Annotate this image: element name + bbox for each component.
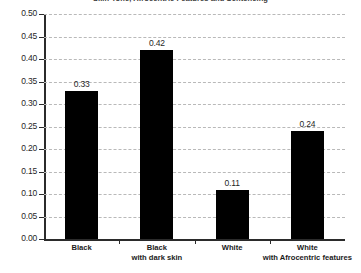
x-axis-tick <box>195 239 196 244</box>
bar-value-label: 0.42 <box>128 38 185 48</box>
chart-title: Skin Tone, Afrocentric Features and Sent… <box>0 0 361 3</box>
y-axis-tick <box>39 37 44 38</box>
y-axis-tick-label: 0.20 <box>3 143 37 153</box>
category-label-line: Black <box>71 243 91 252</box>
y-axis-tick-label: 0.25 <box>3 121 37 131</box>
y-axis-labels: 0.500.450.400.350.300.250.200.150.100.05… <box>0 0 37 273</box>
bar <box>140 50 173 239</box>
bar <box>216 190 249 240</box>
category-label-line: White <box>297 243 318 252</box>
category-label-line: Black <box>147 243 167 252</box>
y-axis-tick <box>39 104 44 105</box>
x-axis-category-label: Whitewith Afrocentric features <box>250 243 361 263</box>
x-axis-tick <box>270 239 271 244</box>
bar-value-label: 0.11 <box>204 178 261 188</box>
gridline <box>44 14 345 15</box>
y-axis-tick-label: 0.45 <box>3 31 37 41</box>
y-axis-tick <box>39 127 44 128</box>
y-axis-tick-label: 0.00 <box>3 233 37 243</box>
y-axis-tick <box>39 59 44 60</box>
y-axis-tick <box>39 14 44 15</box>
y-axis-tick <box>39 149 44 150</box>
y-axis-tick-label: 0.10 <box>3 188 37 198</box>
bar-value-label: 0.24 <box>279 119 336 129</box>
y-axis-tick-label: 0.40 <box>3 53 37 63</box>
y-axis-tick-label: 0.05 <box>3 211 37 221</box>
gridline <box>44 37 345 38</box>
x-axis-tick <box>119 239 120 244</box>
bar-value-label: 0.33 <box>53 79 110 89</box>
category-label-line: with Afrocentric features <box>250 253 361 263</box>
bar <box>65 91 98 240</box>
y-axis-tick <box>39 82 44 83</box>
bar-chart: Skin Tone, Afrocentric Features and Sent… <box>0 0 361 273</box>
y-axis-tick-label: 0.35 <box>3 76 37 86</box>
y-axis-tick <box>39 194 44 195</box>
bar <box>291 131 324 239</box>
y-axis-tick-label: 0.15 <box>3 166 37 176</box>
y-axis-tick <box>39 172 44 173</box>
y-axis-tick <box>39 217 44 218</box>
category-label-line: White <box>222 243 243 252</box>
y-axis-tick <box>39 239 44 240</box>
y-axis-tick-label: 0.30 <box>3 98 37 108</box>
y-axis-tick-label: 0.50 <box>3 8 37 18</box>
gridline <box>44 59 345 60</box>
category-label-line: with dark skin <box>99 253 214 263</box>
